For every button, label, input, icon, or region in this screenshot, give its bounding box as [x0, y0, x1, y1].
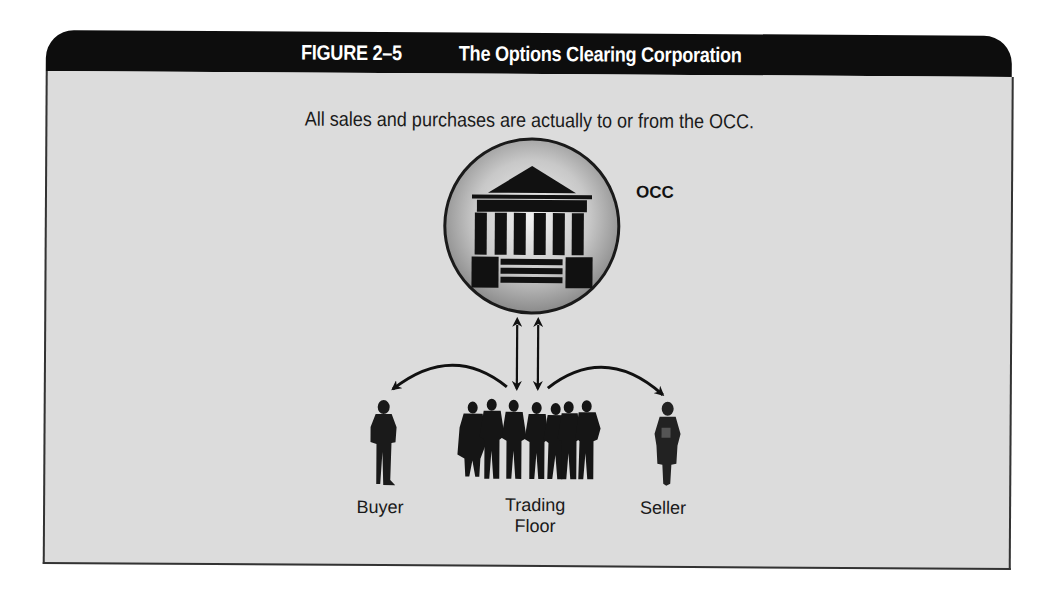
group-silhouette-icon: [457, 399, 600, 480]
seller-silhouette-icon: [654, 402, 681, 486]
seller-label: Seller: [633, 498, 693, 519]
figure-panel: All sales and purchases are actually to …: [43, 71, 1014, 570]
arrow-to-buyer: [393, 365, 507, 390]
arrow-to-seller: [548, 367, 663, 395]
trading-floor-label-line2: Floor: [495, 516, 575, 537]
trading-floor-label: Trading Floor: [495, 495, 575, 537]
trading-floor-label-line1: Trading: [495, 495, 575, 516]
figure-box: FIGURE 2–5 The Options Clearing Corporat…: [43, 30, 1012, 570]
bank-building-icon: [444, 138, 619, 313]
buyer-label: Buyer: [350, 497, 410, 518]
buyer-silhouette-icon: [370, 400, 397, 485]
occ-label: OCC: [636, 183, 674, 203]
